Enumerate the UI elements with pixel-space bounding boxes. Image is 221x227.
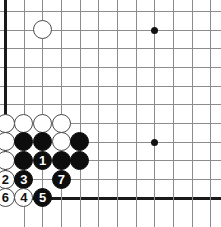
black-stone-row9-b	[14, 151, 33, 170]
stone-move-number: 3	[20, 173, 27, 186]
grid-line-vertical	[117, 0, 118, 227]
grid-line-horizontal	[0, 67, 221, 68]
white-stone-wall-c	[33, 114, 52, 133]
white-stone-move-6: 6	[0, 188, 15, 207]
star-point-upper-right	[151, 27, 158, 34]
black-stone-row9-d	[52, 151, 71, 170]
stone-move-number: 4	[20, 191, 27, 204]
grid-line-vertical	[80, 0, 81, 227]
black-stone-row8-e	[70, 132, 89, 151]
grid-line-vertical	[154, 0, 155, 227]
black-stone-move-3: 3	[14, 170, 33, 189]
stone-move-number: 6	[2, 191, 9, 204]
stone-move-number: 2	[2, 173, 9, 186]
white-stone-move-4: 4	[14, 188, 33, 207]
grid-line-horizontal	[0, 104, 221, 105]
grid-line-horizontal	[0, 86, 221, 87]
white-stone-wall-b	[14, 114, 33, 133]
grid-line-vertical	[98, 0, 99, 227]
grid-line-horizontal	[0, 48, 221, 49]
black-stone-row9-e	[70, 151, 89, 170]
stone-move-number: 1	[39, 154, 46, 167]
black-stone-move-5: 5	[33, 188, 52, 207]
grid-line-horizontal	[0, 11, 221, 12]
star-point-lower-right	[151, 139, 158, 146]
white-stone-top-approach	[33, 20, 52, 39]
grid-line-horizontal	[0, 179, 221, 180]
black-stone-move-7: 7	[52, 170, 71, 189]
black-stone-move-1: 1	[33, 151, 52, 170]
grid-line-vertical	[136, 0, 137, 227]
white-stone-inner-left	[0, 132, 15, 151]
black-stone-row8-c	[33, 132, 52, 151]
stone-move-number: 7	[58, 173, 65, 186]
white-stone-move-2: 2	[0, 170, 15, 189]
go-board-diagram: 1237645	[0, 0, 221, 227]
grid-line-vertical	[173, 0, 174, 227]
white-stone-row8-d	[52, 132, 71, 151]
white-stone-wall-a	[0, 114, 15, 133]
black-stone-row8-b	[14, 132, 33, 151]
white-stone-wall-d	[52, 114, 71, 133]
grid-line-vertical	[192, 0, 193, 227]
grid-line-vertical	[210, 0, 211, 227]
white-stone-corner-side	[0, 151, 15, 170]
stone-move-number: 5	[39, 191, 46, 204]
